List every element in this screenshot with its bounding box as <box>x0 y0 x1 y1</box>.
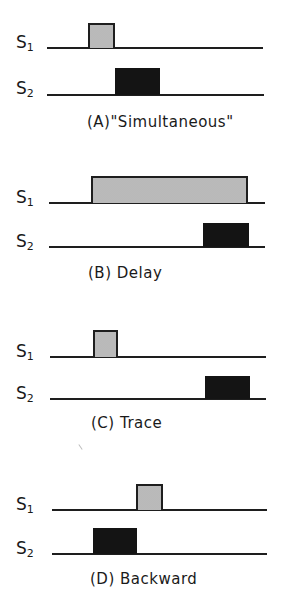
s1-label-subscript: 1 <box>27 196 34 209</box>
s2-stimulus-pulse <box>93 528 137 554</box>
s2-label-letter: S <box>16 383 27 403</box>
s1-label-subscript: 1 <box>27 41 34 54</box>
s1-label-letter: S <box>16 32 27 52</box>
s1-stimulus-pulse <box>91 176 248 203</box>
s1-baseline <box>50 356 266 358</box>
s2-label-subscript: 2 <box>27 392 34 405</box>
conditioning-timing-figure: S1S2(A)"Simultaneous"S1S2(B) DelayS1S2(C… <box>0 0 287 608</box>
panel-caption-c: (C) Trace <box>91 414 162 432</box>
s2-baseline <box>52 553 267 555</box>
s2-stimulus-pulse <box>205 376 250 399</box>
s2-stimulus-pulse <box>203 223 249 247</box>
s2-label-subscript: 2 <box>27 87 34 100</box>
s1-label-subscript: 1 <box>27 350 34 363</box>
s2-label-subscript: 2 <box>27 547 34 560</box>
s1-stimulus-pulse <box>93 330 118 357</box>
s2-label: S2 <box>16 385 34 404</box>
panel-caption-a: (A)"Simultaneous" <box>87 113 234 131</box>
s1-label: S1 <box>16 34 34 53</box>
panel-caption-b: (B) Delay <box>88 264 162 282</box>
s2-stimulus-pulse <box>115 68 160 95</box>
s1-label: S1 <box>16 343 34 362</box>
s2-label: S2 <box>16 540 34 559</box>
s2-label-subscript: 2 <box>27 240 34 253</box>
s2-label-letter: S <box>16 231 27 251</box>
s1-stimulus-pulse <box>88 23 115 48</box>
s2-label-letter: S <box>16 78 27 98</box>
s1-label-subscript: 1 <box>27 503 34 516</box>
s2-label: S2 <box>16 80 34 99</box>
s1-label: S1 <box>16 189 34 208</box>
s1-baseline <box>47 47 263 49</box>
s2-label: S2 <box>16 233 34 252</box>
s1-stimulus-pulse <box>136 484 163 510</box>
s1-label-letter: S <box>16 494 27 514</box>
s1-label-letter: S <box>16 187 27 207</box>
panel-caption-d: (D) Backward <box>90 570 197 588</box>
s2-label-letter: S <box>16 538 27 558</box>
s1-label-letter: S <box>16 341 27 361</box>
s1-label: S1 <box>16 496 34 515</box>
